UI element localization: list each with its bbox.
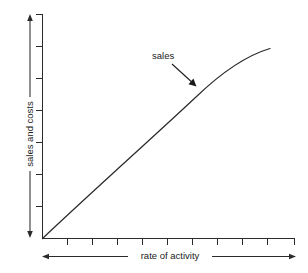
sales-cost-chart-svg: sales and costs [0, 0, 308, 273]
x-axis-ticks [68, 239, 295, 246]
y-axis-ticks [36, 15, 43, 207]
x-axis-title: rate of activity [141, 250, 200, 261]
sales-curve [43, 49, 271, 239]
y-axis-title: sales and costs [24, 101, 35, 167]
x-axis-title-group: rate of activity [42, 250, 296, 261]
chart-figure: sales and costs [0, 0, 308, 273]
sales-annotation-label: sales [152, 50, 174, 61]
y-axis-title-group: sales and costs [24, 14, 35, 238]
sales-annotation-group: sales [152, 50, 197, 87]
